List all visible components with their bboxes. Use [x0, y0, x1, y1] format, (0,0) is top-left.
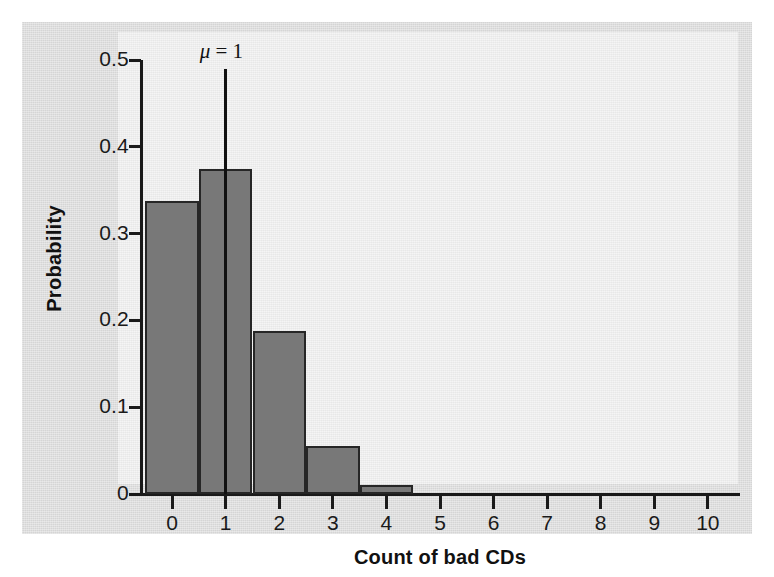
x-tick-label-1: 1	[196, 511, 256, 535]
y-axis-line	[140, 60, 143, 496]
bar-0	[145, 201, 199, 494]
y-tick-label-0.1: 0.1	[63, 394, 129, 418]
bar-4	[360, 485, 414, 494]
x-tick-7	[546, 496, 549, 509]
x-tick-label-5: 5	[410, 511, 470, 535]
mean-marker-label: μ = 1	[200, 39, 243, 64]
y-tick-label-0.4: 0.4	[63, 134, 129, 158]
y-tick-0.4	[129, 145, 141, 148]
mean-marker-line	[224, 69, 227, 494]
x-tick-label-2: 2	[249, 511, 309, 535]
x-tick-label-0: 0	[142, 511, 202, 535]
x-tick-8	[599, 496, 602, 509]
x-tick-3	[331, 496, 334, 509]
y-tick-label-0: 0	[63, 481, 129, 505]
x-tick-label-9: 9	[624, 511, 684, 535]
x-tick-label-4: 4	[356, 511, 416, 535]
y-tick-0.1	[129, 406, 141, 409]
x-axis-title: Count of bad CDs	[140, 546, 740, 569]
y-tick-label-0.3: 0.3	[63, 221, 129, 245]
y-tick-label-0.2: 0.2	[63, 307, 129, 331]
y-tick-label-wrap: 0.1	[44, 407, 129, 408]
y-tick-label-wrap: 0.4	[44, 147, 129, 148]
y-tick-label-wrap: 0.5	[44, 60, 129, 61]
x-tick-6	[492, 496, 495, 509]
y-axis-title: Probability	[43, 179, 66, 339]
x-tick-label-7: 7	[517, 511, 577, 535]
y-tick-0.2	[129, 319, 141, 322]
x-tick-label-10: 10	[678, 511, 738, 535]
x-tick-4	[385, 496, 388, 509]
x-tick-label-6: 6	[464, 511, 524, 535]
y-tick-0.5	[129, 59, 141, 62]
bar-2	[253, 331, 307, 494]
x-tick-9	[653, 496, 656, 509]
y-tick-label-0.5: 0.5	[63, 47, 129, 71]
mu-value: = 1	[210, 39, 243, 63]
x-tick-label-8: 8	[571, 511, 631, 535]
x-tick-5	[439, 496, 442, 509]
x-tick-10	[706, 496, 709, 509]
x-tick-label-3: 3	[303, 511, 363, 535]
x-tick-1	[224, 496, 227, 509]
mu-symbol: μ	[200, 39, 211, 63]
y-tick-label-wrap: 0	[44, 494, 129, 495]
x-tick-0	[171, 496, 174, 509]
y-tick-0.3	[129, 232, 141, 235]
figure-container: 00.10.20.30.40.5 012345678910 μ = 1 Prob…	[22, 22, 752, 534]
x-tick-2	[278, 496, 281, 509]
bar-3	[306, 446, 360, 494]
y-tick-0	[129, 493, 141, 496]
